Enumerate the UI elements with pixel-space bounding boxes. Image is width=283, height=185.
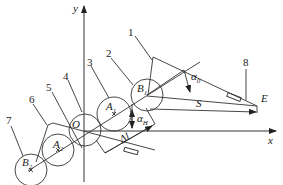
s-dimension-line xyxy=(150,109,256,112)
callout-1: 1 xyxy=(128,26,134,38)
callout-line-3 xyxy=(91,66,109,98)
callout-8: 8 xyxy=(243,56,249,68)
callout-5: 5 xyxy=(46,81,52,93)
label-B1: B1 xyxy=(137,82,147,97)
y-axis-label: y xyxy=(72,2,78,14)
x-axis-label: x xyxy=(267,134,273,146)
lower-sensor xyxy=(124,147,139,154)
callout-line-7 xyxy=(11,126,23,156)
callout-4: 4 xyxy=(63,70,69,82)
callout-line-6 xyxy=(33,104,47,125)
frame-lower xyxy=(48,123,155,150)
label-S: S xyxy=(196,97,202,109)
callout-7: 7 xyxy=(6,114,12,126)
label-E: E xyxy=(260,92,268,104)
label-B2: B2 xyxy=(22,156,33,171)
main-axis-line xyxy=(28,62,200,171)
label-alpha0: α0 xyxy=(191,70,201,85)
label-alphaH: αH xyxy=(137,112,149,127)
callout-line-2 xyxy=(111,58,133,85)
callout-6: 6 xyxy=(29,93,35,105)
callout-2: 2 xyxy=(106,47,112,59)
callout-line-1 xyxy=(135,36,152,60)
callout-3: 3 xyxy=(87,56,93,68)
label-O: O xyxy=(72,118,80,130)
left-bracket xyxy=(36,125,48,162)
label-A1: A1 xyxy=(105,100,116,115)
callout-line-4 xyxy=(68,80,82,112)
sensor-8 xyxy=(227,93,242,102)
frame-inner-line xyxy=(147,70,184,95)
mechanism-diagram: y x 1 2 3 4 5 6 7 8 O xyxy=(0,0,283,185)
